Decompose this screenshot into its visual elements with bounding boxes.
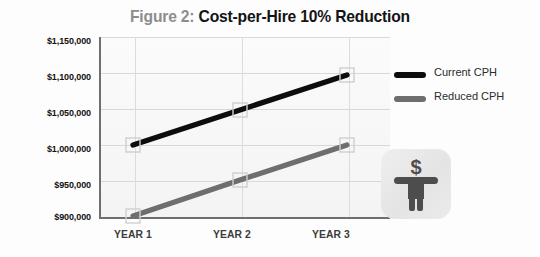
svg-text:$: $ <box>410 156 421 178</box>
plot-area <box>99 37 390 219</box>
legend-swatch-reduced-cph <box>394 96 426 102</box>
x-axis-label-year3: YEAR 3 <box>291 228 372 240</box>
gridline-horizontal-950000 <box>101 181 390 182</box>
x-axis-label-year1: YEAR 1 <box>93 228 174 240</box>
y-axis-label-1: $1,100,000 <box>0 72 91 82</box>
chart-legend: Current CPH Reduced CPH <box>394 66 534 114</box>
gridline-vertical-year3 <box>349 37 350 217</box>
gridline-vertical-year2 <box>242 37 243 217</box>
gridline-vertical-year1 <box>135 37 136 217</box>
y-axis-label-2: $1,050,000 <box>0 108 91 118</box>
person-with-dollar-head-icon: $ <box>381 149 451 219</box>
legend-label-reduced-cph: Reduced CPH <box>434 90 504 102</box>
gridline-horizontal-1050000 <box>101 109 390 110</box>
cost-per-hire-badge: $ <box>381 149 451 219</box>
y-axis-label-4: $950,000 <box>0 180 91 190</box>
legend-item-reduced-cph: Reduced CPH <box>394 90 534 114</box>
gridline-horizontal-1000000 <box>101 145 390 146</box>
gridline-horizontal-1150000 <box>101 37 390 38</box>
y-axis-label-5: $900,000 <box>0 212 91 222</box>
chart-title-prefix: Figure 2: <box>130 7 194 26</box>
legend-swatch-current-cph <box>394 72 426 78</box>
legend-item-current-cph: Current CPH <box>394 66 534 90</box>
y-axis-label-3: $1,000,000 <box>0 144 91 154</box>
chart-title: Figure 2: Cost-per-Hire 10% Reduction <box>22 7 519 27</box>
x-axis-label-year2: YEAR 2 <box>192 228 273 240</box>
figure-container: Figure 2: Cost-per-Hire 10% Reduction $1… <box>0 0 540 257</box>
chart-title-main: Cost-per-Hire 10% Reduction <box>199 7 410 26</box>
legend-label-current-cph: Current CPH <box>434 66 497 78</box>
y-axis-label-0: $1,150,000 <box>0 36 91 46</box>
gridline-horizontal-1100000 <box>101 73 390 74</box>
